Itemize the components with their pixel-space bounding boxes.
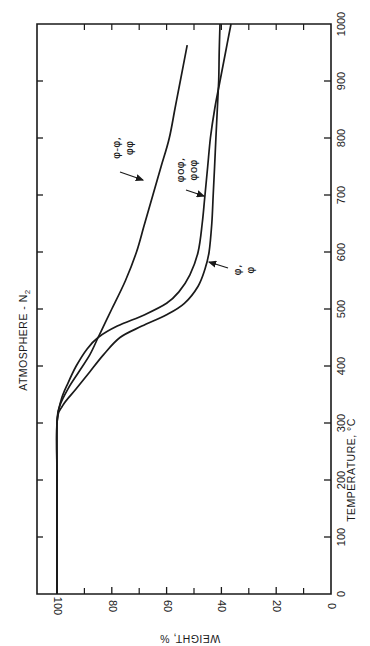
tga-chart: 0100200300400500600700800900100002040608… <box>0 0 370 646</box>
temperature-tick-label: 1000 <box>335 12 347 36</box>
temperature-tick-label: 700 <box>335 186 347 204</box>
annotation-text: φφ <box>123 141 136 156</box>
axis-tick-labels: 0100200300400500600700800900100002040608… <box>52 12 347 615</box>
temperature-tick-label: 100 <box>335 528 347 546</box>
weight-tick-label: 80 <box>107 600 119 612</box>
chart-title: ATMOSPHERE - N2 <box>17 289 32 391</box>
axis-titles: ATMOSPHERE - N2 TEMPERATURE, °C WEIGHT, … <box>17 289 357 645</box>
weight-tick-label: 40 <box>216 600 228 612</box>
axis-ticks <box>37 24 331 594</box>
data-curves <box>57 24 231 594</box>
annotation-text: φoφ <box>187 159 200 180</box>
arrow-icon <box>209 262 228 268</box>
temperature-tick-label: 900 <box>335 72 347 90</box>
temperature-tick-label: 400 <box>335 357 347 375</box>
annotation-phi-comma-phi: φ,φ <box>209 262 257 275</box>
weight-tick-label: 20 <box>271 600 283 612</box>
curve-phi-comma-phi <box>57 24 220 594</box>
curve-phi-phi <box>57 45 187 594</box>
temperature-tick-label: 600 <box>335 243 347 261</box>
annotation-text: φ <box>244 266 257 273</box>
curve-phi-o-phi <box>57 24 231 594</box>
arrow-icon <box>120 172 143 180</box>
weight-tick-label: 0 <box>326 603 338 609</box>
weight-tick-label: 60 <box>162 600 174 612</box>
annotation-phi-o-phi: φoφ,φoφ <box>174 158 204 196</box>
plot-border <box>37 24 331 594</box>
temperature-tick-label: 0 <box>335 591 347 597</box>
annotation-text: φoφ, <box>174 158 187 183</box>
y-axis-title: WEIGHT, % <box>160 633 221 645</box>
weight-tick-label: 100 <box>52 597 64 615</box>
arrow-icon <box>186 190 204 196</box>
x-axis-title: TEMPERATURE, °C <box>345 418 357 522</box>
annotation-phi-phi: φ-φ,φφ <box>110 137 143 180</box>
plot-frame <box>37 24 331 594</box>
annotation-text: φ, <box>231 265 244 276</box>
temperature-tick-label: 500 <box>335 300 347 318</box>
annotation-text: φ-φ, <box>110 137 123 159</box>
temperature-tick-label: 800 <box>335 129 347 147</box>
curve-annotations: φ-φ,φφφoφ,φoφφ,φ <box>110 137 257 275</box>
